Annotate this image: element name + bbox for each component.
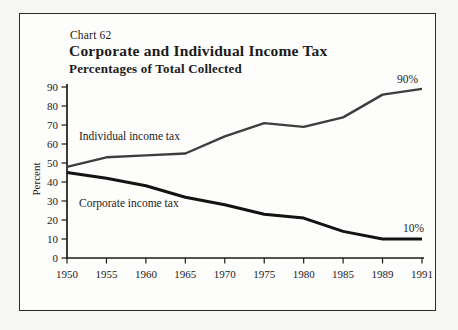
x-tick-label: 1950 [45, 267, 89, 281]
x-tick-label: 1985 [321, 267, 365, 281]
y-tick-label: 60 [28, 137, 58, 151]
individual-series-label: Individual income tax [79, 130, 180, 142]
x-tick-label: 1965 [163, 267, 207, 281]
chart-subtitle: Percentages of Total Collected [69, 61, 242, 77]
chart-number: Chart 62 [70, 29, 112, 41]
y-tick-label: 20 [28, 213, 58, 227]
y-tick-label: 30 [28, 194, 58, 208]
x-tick-label: 1960 [124, 267, 168, 281]
x-tick-label: 1970 [203, 267, 247, 281]
series-line-individual [67, 89, 422, 167]
y-tick-label: 70 [28, 118, 58, 132]
y-tick-label: 80 [28, 99, 58, 113]
x-tick-label: 1991 [400, 267, 444, 281]
y-tick-label: 50 [28, 156, 58, 170]
x-tick-label: 1955 [84, 267, 128, 281]
x-tick-label: 1980 [282, 267, 326, 281]
x-tick-label: 1989 [361, 267, 405, 281]
y-tick-label: 0 [28, 251, 58, 265]
chart-title: Corporate and Individual Income Tax [69, 42, 328, 60]
figure-page: Chart 62 Corporate and Individual Income… [0, 0, 458, 330]
y-tick-label: 90 [28, 80, 58, 94]
y-tick-label: 10 [28, 232, 58, 246]
corporate-end-value-label: 10% [392, 222, 424, 234]
corporate-series-label: Corporate income tax [79, 197, 179, 209]
individual-end-value-label: 90% [384, 73, 418, 85]
x-tick-label: 1975 [242, 267, 286, 281]
y-tick-label: 40 [28, 175, 58, 189]
